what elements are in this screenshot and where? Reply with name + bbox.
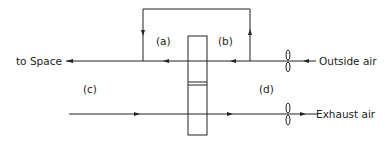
arrow-left-icon	[163, 59, 169, 63]
heat-recovery-wheel-diagram: to Space Outside air Exhaust air (a) (b)…	[0, 0, 385, 142]
arrow-right-icon	[227, 112, 233, 116]
exhaust-air-label: Exhaust air	[316, 108, 376, 120]
arrow-right-icon	[300, 112, 306, 116]
arrow-left-icon	[66, 59, 73, 63]
arrow-left-icon	[303, 59, 309, 63]
arrow-down-icon	[141, 30, 145, 36]
arrow-right-icon	[134, 112, 140, 116]
region-a-label: (a)	[156, 35, 171, 47]
to-space-label: to Space	[16, 55, 62, 67]
arrow-left-icon	[230, 59, 236, 63]
outside-air-label: Outside air	[319, 55, 377, 67]
region-c-label: (c)	[83, 83, 97, 95]
region-b-label: (b)	[218, 35, 233, 47]
arrow-up-icon	[248, 29, 252, 35]
region-d-label: (d)	[259, 83, 274, 95]
